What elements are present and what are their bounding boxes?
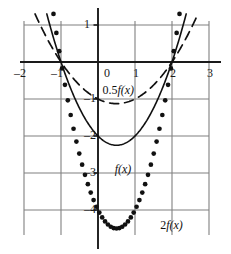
y-tick-label--4: –4 [84,203,96,215]
parabola-transformations-chart: –2 –1 0 1 2 3 1 –1 –2 –3 –4 0.5f(x) f(x)… [0,0,231,254]
x-tick-label--1: –1 [51,67,63,79]
curve-label-half-f-coef: 0.5 [102,83,117,97]
curve-label-half-f-fn: f(x) [117,83,134,97]
y-tick-label--3: –3 [84,166,96,178]
curve-label-f: f(x) [115,163,132,175]
x-tick-label-1: 1 [133,67,139,79]
curve-label-two-f: 2f(x) [160,219,183,231]
y-tick-label--2: –2 [84,129,96,141]
x-tick-label--2: –2 [14,67,26,79]
x-tick-label-0: 0 [104,67,110,79]
curve-label-two-f-fn: f(x) [166,218,183,232]
x-tick-label-3: 3 [207,67,213,79]
y-tick-label--1: –1 [84,92,96,104]
gridlines-group [24,21,209,235]
x-tick-label-2: 2 [170,67,176,79]
y-tick-label-1: 1 [84,18,90,30]
plot-canvas [0,0,231,254]
curve-label-half-f: 0.5f(x) [102,84,134,96]
curves-group [35,12,198,231]
curve-label-f-fn: f(x) [115,162,132,176]
